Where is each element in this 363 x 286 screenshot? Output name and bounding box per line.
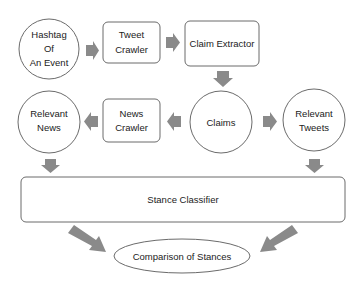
node-label: Crawler <box>115 122 148 133</box>
arrow-right-icon <box>263 112 277 131</box>
arrow-down-icon <box>213 71 233 87</box>
node-label: Of <box>44 43 54 54</box>
node-label: Relevant <box>30 108 68 119</box>
arrow-right-icon <box>166 33 180 52</box>
node-label: Stance Classifier <box>147 194 218 205</box>
node-comparison-of-stances: Comparison of Stances <box>114 239 250 273</box>
node-label: Comparison of Stances <box>133 251 232 262</box>
node-label: News <box>37 122 61 133</box>
node-claims: Claims <box>190 91 252 153</box>
node-label: News <box>120 108 144 119</box>
node-tweet-crawler: Tweet Crawler <box>103 22 160 63</box>
node-label: Claims <box>206 117 235 128</box>
flow-diagram: Hashtag Of An Event Tweet Crawler Claim … <box>0 0 363 286</box>
node-relevant-tweets: Relevant Tweets <box>283 89 345 151</box>
arrow-left-icon <box>167 112 181 131</box>
arrow-diagonal-icon <box>260 225 298 252</box>
arrow-left-icon <box>84 112 98 131</box>
node-relevant-news: Relevant News <box>18 91 80 153</box>
arrow-down-icon <box>305 159 324 173</box>
node-stance-classifier: Stance Classifier <box>21 177 345 222</box>
arrow-down-icon <box>41 159 60 173</box>
node-label: Tweets <box>299 122 329 133</box>
node-claim-extractor: Claim Extractor <box>185 21 259 66</box>
arrow-diagonal-icon <box>68 225 106 252</box>
node-label: Claim Extractor <box>190 38 255 49</box>
node-label: Relevant <box>295 108 333 119</box>
node-label: Crawler <box>115 44 148 55</box>
node-label: An Event <box>30 57 69 68</box>
node-hashtag: Hashtag Of An Event <box>19 19 79 79</box>
node-news-crawler: News Crawler <box>103 99 160 142</box>
arrow-right-icon <box>86 41 99 60</box>
node-label: Hashtag <box>31 29 66 40</box>
node-label: Tweet <box>119 29 145 40</box>
